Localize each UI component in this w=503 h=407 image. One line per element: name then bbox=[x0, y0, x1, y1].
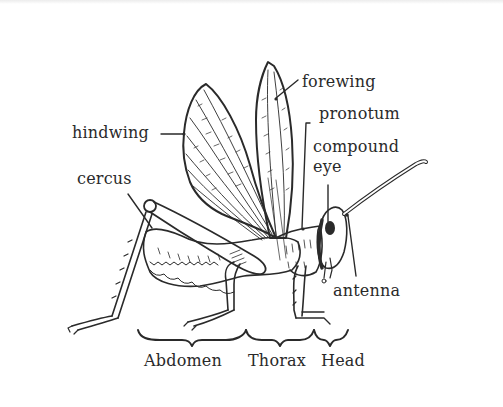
label-head: Head bbox=[321, 352, 365, 369]
thorax-brace bbox=[246, 330, 314, 346]
forewing-leader bbox=[276, 80, 298, 98]
grasshopper-illustration bbox=[0, 0, 503, 407]
label-pronotum: pronotum bbox=[319, 105, 400, 122]
label-abdomen: Abdomen bbox=[144, 352, 222, 369]
middle-leg-shape bbox=[184, 262, 240, 330]
label-hindwing: hindwing bbox=[72, 124, 149, 141]
antenna-leader bbox=[348, 216, 356, 276]
label-forewing: forewing bbox=[302, 73, 376, 90]
grasshopper-diagram: forewing pronotum hindwing compound eye … bbox=[0, 0, 503, 407]
label-thorax: Thorax bbox=[248, 352, 306, 369]
abdomen-brace bbox=[138, 330, 246, 346]
hindwing-shape bbox=[183, 84, 276, 240]
label-compound-eye-line2: eye bbox=[313, 158, 342, 175]
pronotum-leader bbox=[302, 123, 310, 228]
region-braces bbox=[138, 330, 348, 346]
label-compound-eye-line1: compound bbox=[313, 138, 399, 155]
antenna-shape bbox=[344, 161, 426, 217]
label-cercus: cercus bbox=[77, 170, 132, 187]
head-brace bbox=[314, 330, 348, 346]
label-antenna: antenna bbox=[333, 282, 400, 299]
